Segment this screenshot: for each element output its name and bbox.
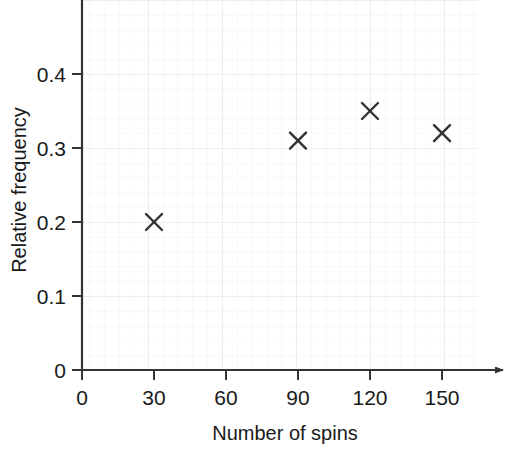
x-tick-label-4: 120 [352,386,387,409]
chart-canvas: 0 0.1 0.2 0.3 0.4 0 30 60 90 120 150 Num… [0,0,519,451]
y-tick-label-1: 0.1 [37,285,66,308]
x-tick-label-1: 30 [142,386,165,409]
x-tick-labels: 0 30 60 90 120 150 [76,386,459,409]
y-tick-label-3: 0.3 [37,137,66,160]
x-tick-label-2: 60 [214,386,237,409]
y-axis-ticks [72,74,82,370]
y-tick-label-2: 0.2 [37,211,66,234]
x-tick-label-0: 0 [76,386,88,409]
y-tick-label-0: 0 [54,359,66,382]
x-axis-ticks [82,370,442,380]
x-axis-title: Number of spins [212,422,358,444]
y-tick-labels: 0 0.1 0.2 0.3 0.4 [37,63,67,382]
x-tick-label-3: 90 [286,386,309,409]
plot-grid [82,0,478,370]
y-tick-label-4: 0.4 [37,63,67,86]
x-tick-label-5: 150 [424,386,459,409]
y-axis-title: Relative frequency [8,107,30,273]
scatter-chart: 0 0.1 0.2 0.3 0.4 0 30 60 90 120 150 Num… [0,0,519,451]
